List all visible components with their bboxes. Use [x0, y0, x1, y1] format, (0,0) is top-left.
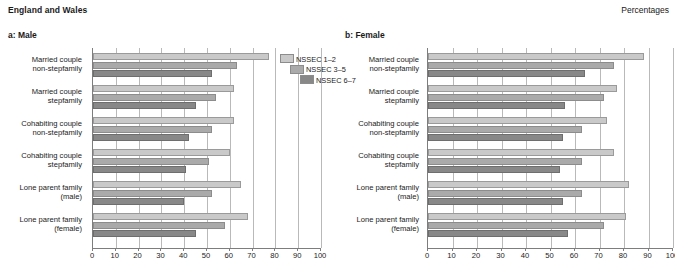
bar	[93, 134, 189, 141]
bar	[93, 149, 230, 156]
axis-tick-label: 70	[594, 251, 602, 260]
bar	[93, 70, 212, 77]
axis-tick-label: 90	[643, 251, 651, 260]
chart-panel-male: a: Male Married couplenon-stepfamilyMarr…	[0, 30, 330, 271]
bar	[428, 117, 607, 124]
category-label: Lone parent family(male)	[0, 183, 82, 202]
axis-tick-label: 0	[90, 251, 94, 260]
bar	[93, 166, 186, 173]
category-label: Married couplenon-stepfamily	[0, 55, 82, 74]
bar	[93, 213, 248, 220]
bar	[93, 62, 237, 69]
plot-area-male	[92, 48, 320, 248]
axis-tick-label: 60	[225, 251, 233, 260]
legend-swatch	[300, 75, 314, 84]
category-label: Married couplenon-stepfamily	[337, 55, 419, 74]
bar	[93, 126, 212, 133]
bar	[428, 102, 565, 109]
page-title: England and Wales	[8, 5, 87, 15]
axis-tick-label: 100	[666, 251, 675, 260]
category-label: Cohabiting couplestepfamily	[0, 151, 82, 170]
category-label: Married couplestepfamily	[0, 87, 82, 106]
bar	[93, 198, 184, 205]
axis-tick-label: 20	[133, 251, 141, 260]
bar	[93, 222, 225, 229]
legend-label: NSSEC 1–2	[296, 55, 336, 64]
bar	[93, 53, 269, 60]
bar	[428, 85, 617, 92]
gridline	[673, 48, 674, 248]
category-label: Cohabiting couplenon-stepfamily	[337, 119, 419, 138]
chart-panel-female: b: Female Married couplenon-stepfamilyMa…	[337, 30, 675, 271]
bar	[93, 102, 196, 109]
bar	[428, 222, 604, 229]
legend-swatch	[280, 54, 294, 63]
axis-tick-label: 10	[111, 251, 119, 260]
axis-tick-label: 50	[202, 251, 210, 260]
legend-swatch	[290, 65, 304, 74]
bar	[428, 53, 644, 60]
axis-tick-label: 20	[472, 251, 480, 260]
axis-tick-label: 100	[314, 251, 327, 260]
units-label: Percentages	[621, 5, 669, 15]
bar	[428, 94, 604, 101]
x-axis-female: 0102030405060708090100	[427, 248, 672, 260]
gridline	[253, 48, 254, 248]
axis-tick-label: 50	[545, 251, 553, 260]
axis-tick-label: 90	[293, 251, 301, 260]
bar	[428, 126, 582, 133]
bar	[428, 198, 563, 205]
category-label: Lone parent family(male)	[337, 183, 419, 202]
chart-page: England and Wales Percentages a: Male Ma…	[0, 0, 675, 271]
axis-tick-label: 30	[496, 251, 504, 260]
category-label: Cohabiting couplestepfamily	[337, 151, 419, 170]
axis-tick-label: 60	[570, 251, 578, 260]
plot-area-female	[427, 48, 672, 248]
bar	[428, 149, 614, 156]
bar	[93, 117, 234, 124]
bar	[93, 190, 212, 197]
category-labels-male: Married couplenon-stepfamilyMarried coup…	[2, 48, 86, 248]
bar	[93, 94, 216, 101]
category-labels-female: Married couplenon-stepfamilyMarried coup…	[339, 48, 423, 248]
gridline	[275, 48, 276, 248]
panel-title-female: b: Female	[345, 30, 385, 40]
bar	[428, 62, 614, 69]
bar	[428, 230, 568, 237]
category-label: Lone parent family(female)	[0, 215, 82, 234]
bar	[428, 166, 560, 173]
axis-tick-label: 80	[619, 251, 627, 260]
bar	[428, 181, 629, 188]
category-label: Married couplestepfamily	[337, 87, 419, 106]
bar	[93, 158, 209, 165]
x-axis-male: 0102030405060708090100	[92, 248, 320, 260]
bar	[428, 70, 585, 77]
bar	[93, 85, 234, 92]
bar	[428, 158, 582, 165]
axis-tick-label: 0	[425, 251, 429, 260]
axis-tick-label: 80	[270, 251, 278, 260]
gridline	[649, 48, 650, 248]
axis-tick-label: 40	[521, 251, 529, 260]
bar	[428, 190, 582, 197]
axis-tick-label: 40	[179, 251, 187, 260]
panel-title-male: a: Male	[8, 30, 37, 40]
category-label: Cohabiting couplenon-stepfamily	[0, 119, 82, 138]
axis-tick-label: 10	[447, 251, 455, 260]
axis-tick-label: 30	[156, 251, 164, 260]
category-label: Lone parent family(female)	[337, 215, 419, 234]
bar	[93, 230, 196, 237]
bar	[93, 181, 241, 188]
bar	[428, 134, 563, 141]
axis-tick-label: 70	[247, 251, 255, 260]
bar	[428, 213, 626, 220]
